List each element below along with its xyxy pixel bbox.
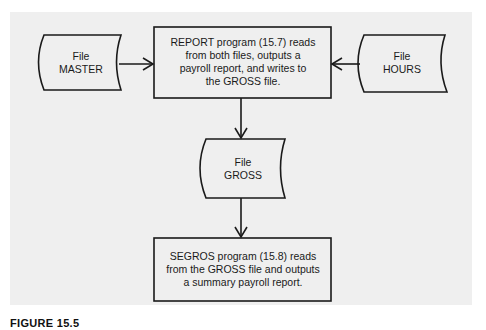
process-segros-line-1: SEGROS program (15.8) reads (156, 250, 330, 263)
process-report-label: REPORT program (15.7) reads from both fi… (156, 36, 330, 88)
process-segros-line-3: a summary payroll report. (156, 276, 330, 289)
file-master-line-2: MASTER (44, 63, 118, 76)
process-report-line-4: the GROSS file. (156, 75, 330, 88)
file-master-line-1: File (44, 50, 118, 63)
process-segros-line-2: from the GROSS file and outputs (156, 263, 330, 276)
file-hours-line-2: HOURS (362, 63, 442, 76)
file-master-label: File MASTER (44, 50, 118, 76)
file-hours-line-1: File (362, 50, 442, 63)
process-report-line-2: from both files, outputs a (156, 49, 330, 62)
figure-caption-label: FIGURE 15.5 (10, 317, 79, 329)
file-gross-label: File GROSS (203, 156, 283, 182)
file-gross-line-1: File (203, 156, 283, 169)
figure-caption: FIGURE 15.5 (10, 317, 87, 330)
file-gross-line-2: GROSS (203, 169, 283, 182)
process-segros-label: SEGROS program (15.8) reads from the GRO… (156, 250, 330, 289)
process-report-line-3: payroll report, and writes to (156, 62, 330, 75)
file-hours-label: File HOURS (362, 50, 442, 76)
process-report-line-1: REPORT program (15.7) reads (156, 36, 330, 49)
